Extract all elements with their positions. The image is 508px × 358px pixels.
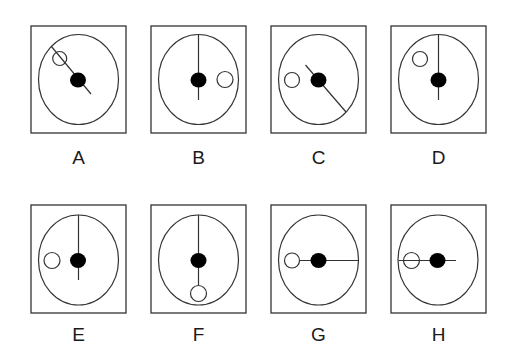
open-circle [44, 253, 60, 269]
panel-g [271, 205, 366, 313]
filled-dot [311, 253, 327, 268]
open-circle [53, 52, 67, 66]
open-circle [285, 253, 300, 268]
panel-label-h: H [419, 325, 459, 345]
panel-label-c: C [299, 148, 339, 168]
panel-label-f: F [179, 325, 219, 345]
panel-label-d: D [419, 148, 459, 168]
panel-b [151, 26, 246, 133]
panel-h [391, 205, 486, 313]
open-circle [285, 73, 300, 88]
panel-a [31, 26, 126, 133]
panel-label-g: G [299, 325, 339, 345]
filled-dot [70, 253, 86, 268]
panel-d [391, 26, 486, 133]
filled-dot [430, 253, 446, 268]
line-segment [306, 65, 347, 112]
open-circle [413, 52, 428, 67]
filled-dot [311, 73, 327, 88]
panel-e [31, 205, 126, 313]
panel-label-b: B [179, 148, 219, 168]
panel-f [151, 205, 246, 313]
open-circle [191, 286, 207, 302]
figure-canvas [0, 0, 508, 358]
filled-dot [431, 73, 447, 88]
panel-label-a: A [59, 148, 99, 168]
filled-dot [70, 73, 86, 88]
open-circle [404, 253, 420, 269]
open-circle [217, 72, 233, 88]
filled-dot [191, 253, 207, 268]
panel-label-e: E [59, 325, 99, 345]
panel-c [271, 26, 366, 133]
filled-dot [191, 73, 207, 88]
